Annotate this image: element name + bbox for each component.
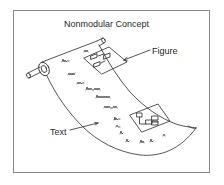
text-label: Text <box>50 127 67 137</box>
figure-top-icon <box>84 47 127 74</box>
scroll-illustration <box>0 0 224 185</box>
figure-bottom-icon <box>130 104 170 132</box>
scroll-sheet <box>47 45 196 155</box>
figure-label: Figure <box>152 46 178 56</box>
callout-arrows <box>70 50 150 130</box>
